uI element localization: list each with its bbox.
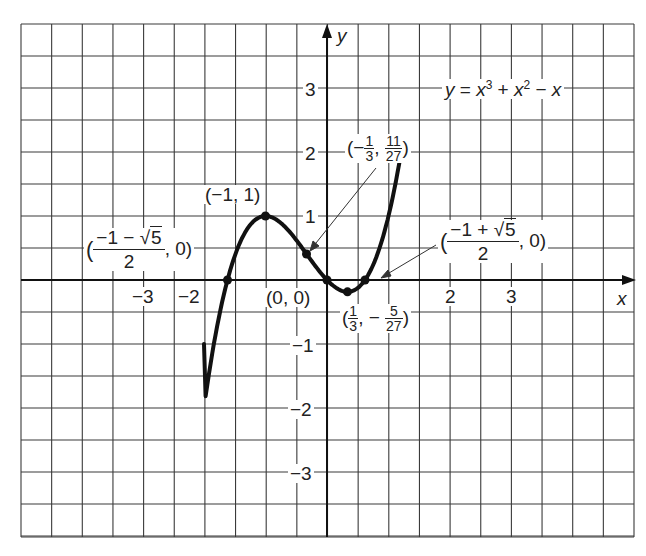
x-tick-neg3: −3: [130, 287, 156, 306]
key-point-marker: [223, 276, 232, 285]
y-tick-neg3: −3: [288, 464, 314, 483]
key-point-marker: [343, 287, 352, 296]
eq-minus: −: [530, 79, 552, 100]
y-tick-2: 2: [303, 144, 318, 163]
eq-x1: x: [476, 79, 486, 100]
key-point-marker: [302, 249, 311, 258]
label-inflection: (−13, 1127): [345, 134, 411, 163]
y-tick-3: 3: [303, 80, 318, 99]
equation-label: y = x3 + x2 − x: [442, 79, 564, 99]
eq-x3: x: [552, 79, 562, 100]
key-points: [223, 212, 370, 297]
y-axis-label: y: [337, 26, 347, 45]
label-local-max: (−1, 1): [203, 185, 262, 204]
eq-plus: +: [492, 79, 514, 100]
y-axis-arrow-icon: [322, 24, 332, 38]
x-tick-3: 3: [504, 287, 519, 306]
eq-equals: =: [455, 79, 477, 100]
label-root-right: (−1 + √52, 0): [438, 220, 548, 263]
key-point-marker: [361, 276, 370, 285]
label-origin: (0, 0): [264, 288, 312, 307]
y-tick-1: 1: [303, 207, 318, 226]
key-point-marker: [261, 212, 270, 221]
eq-x2: x: [514, 79, 524, 100]
x-axis-label: x: [617, 289, 627, 308]
y-tick-neg1: −1: [290, 336, 316, 355]
x-tick-neg2: −2: [176, 287, 202, 306]
y-tick-neg2: −2: [288, 400, 314, 419]
x-tick-2: 2: [443, 287, 458, 306]
label-root-left: (−1 − √52, 0): [84, 228, 194, 271]
label-local-min: (13, − 527): [340, 304, 411, 333]
key-point-marker: [323, 276, 332, 285]
eq-y: y: [445, 79, 455, 100]
